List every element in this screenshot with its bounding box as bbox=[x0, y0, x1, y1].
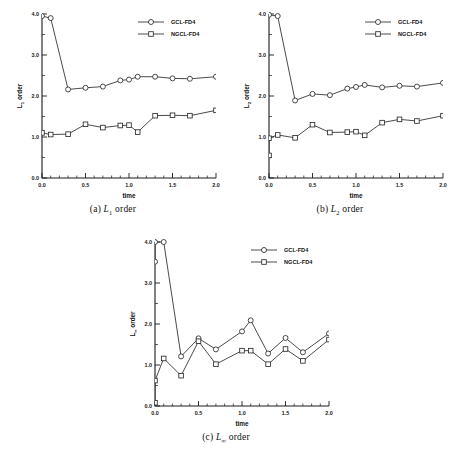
data-point-gcl-fd4 bbox=[118, 78, 123, 83]
data-point-gcl-fd4 bbox=[362, 82, 367, 87]
data-point-gcl-fd4 bbox=[153, 240, 158, 245]
data-point-ngcl-fd4 bbox=[310, 122, 315, 127]
legend-marker-square bbox=[376, 32, 381, 37]
y-tick-label: 4.0 bbox=[32, 11, 40, 17]
plot-area: 0.01.02.03.04.00.00.51.01.52.0timeL2 ord… bbox=[227, 0, 453, 200]
data-point-gcl-fd4 bbox=[327, 93, 332, 98]
panel-caption: (c) L∞ order bbox=[113, 432, 339, 444]
axis-lines bbox=[269, 14, 443, 178]
data-point-gcl-fd4 bbox=[127, 77, 132, 82]
y-tick-label: 1.0 bbox=[259, 134, 267, 140]
data-point-gcl-fd4 bbox=[414, 84, 419, 89]
data-point-gcl-fd4 bbox=[240, 329, 245, 334]
x-tick-label: 1.5 bbox=[396, 182, 404, 188]
axis-lines bbox=[155, 242, 329, 406]
data-point-ngcl-fd4 bbox=[283, 347, 288, 352]
figure-convergence-order: 0.01.02.03.04.00.00.51.01.52.0timeL1 ord… bbox=[0, 0, 453, 466]
x-tick-label: 1.5 bbox=[169, 182, 177, 188]
legend-marker-circle bbox=[149, 20, 154, 25]
data-point-ngcl-fd4 bbox=[135, 130, 140, 135]
data-point-gcl-fd4 bbox=[161, 240, 166, 245]
data-point-ngcl-fd4 bbox=[153, 378, 158, 383]
y-tick-label: 2.0 bbox=[145, 321, 153, 327]
data-point-ngcl-fd4 bbox=[101, 125, 106, 130]
y-tick-label: 0.0 bbox=[145, 403, 153, 409]
x-tick-label: 1.0 bbox=[238, 410, 246, 416]
data-point-ngcl-fd4 bbox=[66, 132, 71, 137]
legend-marker-square bbox=[149, 32, 154, 37]
legend-label: NGCL-FD4 bbox=[398, 31, 427, 37]
data-point-gcl-fd4 bbox=[266, 351, 271, 356]
y-tick-label: 1.0 bbox=[32, 134, 40, 140]
x-tick-label: 2.0 bbox=[212, 182, 220, 188]
x-axis-title: time bbox=[349, 192, 363, 199]
data-point-gcl-fd4 bbox=[441, 80, 446, 85]
x-tick-label: 1.0 bbox=[125, 182, 133, 188]
panel-caption: (b) L2 order bbox=[227, 204, 453, 216]
panel-l1-order: 0.01.02.03.04.00.00.51.01.52.0timeL1 ord… bbox=[0, 0, 226, 224]
legend-label: GCL-FD4 bbox=[284, 247, 309, 253]
data-point-gcl-fd4 bbox=[100, 84, 105, 89]
data-point-ngcl-fd4 bbox=[354, 129, 359, 134]
x-axis-title: time bbox=[122, 192, 136, 199]
data-point-ngcl-fd4 bbox=[153, 400, 158, 405]
data-point-ngcl-fd4 bbox=[248, 348, 253, 353]
data-point-gcl-fd4 bbox=[153, 74, 158, 79]
data-point-gcl-fd4 bbox=[40, 14, 45, 19]
data-point-ngcl-fd4 bbox=[301, 359, 306, 364]
data-point-ngcl-fd4 bbox=[83, 122, 88, 127]
data-point-gcl-fd4 bbox=[170, 76, 175, 81]
data-point-ngcl-fd4 bbox=[179, 373, 184, 378]
data-point-gcl-fd4 bbox=[275, 14, 280, 19]
x-tick-label: 0.5 bbox=[309, 182, 317, 188]
panel-l2-order: 0.01.02.03.04.00.00.51.01.52.0timeL2 ord… bbox=[227, 0, 453, 224]
legend-marker-circle bbox=[376, 20, 381, 25]
data-point-gcl-fd4 bbox=[354, 84, 359, 89]
data-point-gcl-fd4 bbox=[283, 335, 288, 340]
data-point-gcl-fd4 bbox=[380, 85, 385, 90]
data-point-ngcl-fd4 bbox=[240, 348, 245, 353]
y-tick-label: 3.0 bbox=[145, 280, 153, 286]
y-tick-label: 4.0 bbox=[259, 11, 267, 17]
data-point-gcl-fd4 bbox=[135, 74, 140, 79]
data-point-ngcl-fd4 bbox=[48, 132, 53, 137]
panel-linf-order: 0.01.02.03.04.00.00.51.01.52.0timeL∞ ord… bbox=[113, 228, 339, 466]
data-point-ngcl-fd4 bbox=[118, 123, 123, 128]
panel-caption: (a) L1 order bbox=[0, 204, 226, 216]
y-tick-label: 0.0 bbox=[259, 175, 267, 181]
x-tick-label: 2.0 bbox=[439, 182, 447, 188]
data-point-ngcl-fd4 bbox=[153, 113, 158, 118]
data-point-ngcl-fd4 bbox=[345, 130, 350, 135]
data-point-ngcl-fd4 bbox=[328, 130, 333, 135]
data-point-gcl-fd4 bbox=[153, 259, 158, 264]
data-point-gcl-fd4 bbox=[179, 354, 184, 359]
data-point-ngcl-fd4 bbox=[275, 133, 280, 138]
data-point-gcl-fd4 bbox=[248, 318, 253, 323]
data-point-ngcl-fd4 bbox=[266, 362, 271, 367]
data-point-gcl-fd4 bbox=[83, 85, 88, 90]
x-tick-label: 0.0 bbox=[265, 182, 273, 188]
legend-marker-circle bbox=[262, 248, 267, 253]
data-point-gcl-fd4 bbox=[66, 87, 71, 92]
x-tick-label: 0.5 bbox=[82, 182, 90, 188]
data-point-gcl-fd4 bbox=[293, 98, 298, 103]
data-point-gcl-fd4 bbox=[300, 350, 305, 355]
data-point-ngcl-fd4 bbox=[362, 133, 367, 138]
data-point-ngcl-fd4 bbox=[214, 108, 219, 113]
x-tick-label: 0.5 bbox=[195, 410, 203, 416]
x-tick-label: 1.0 bbox=[352, 182, 360, 188]
data-point-gcl-fd4 bbox=[310, 91, 315, 96]
data-point-ngcl-fd4 bbox=[397, 117, 402, 122]
data-point-gcl-fd4 bbox=[327, 331, 332, 336]
legend-label: GCL-FD4 bbox=[398, 19, 423, 25]
legend-label: NGCL-FD4 bbox=[171, 31, 200, 37]
y-tick-label: 4.0 bbox=[145, 239, 153, 245]
data-point-ngcl-fd4 bbox=[327, 337, 332, 342]
data-point-ngcl-fd4 bbox=[441, 113, 446, 118]
data-point-ngcl-fd4 bbox=[188, 113, 193, 118]
data-point-gcl-fd4 bbox=[214, 74, 219, 79]
plot-area: 0.01.02.03.04.00.00.51.01.52.0timeL1 ord… bbox=[0, 0, 226, 200]
data-point-gcl-fd4 bbox=[48, 16, 53, 21]
y-tick-label: 1.0 bbox=[145, 362, 153, 368]
legend-label: NGCL-FD4 bbox=[284, 259, 313, 265]
